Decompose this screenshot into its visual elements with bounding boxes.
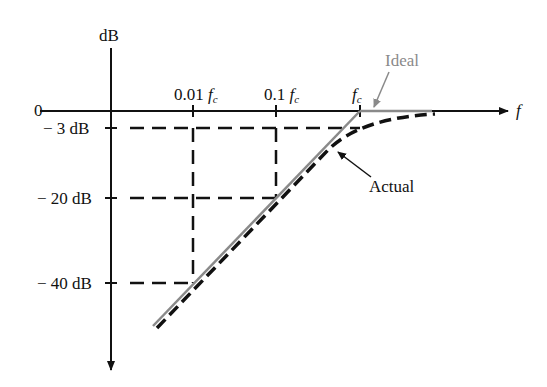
ideal-pointer xyxy=(374,72,389,107)
actual-label: Actual xyxy=(369,178,414,195)
y-tick-3db: − 3 dB xyxy=(43,120,89,137)
origin-label: 0 xyxy=(34,102,43,119)
actual-pointer xyxy=(338,152,371,177)
y-axis-label: dB xyxy=(99,27,119,44)
x-tick-0.01fc: 0.01 fc xyxy=(174,86,218,105)
ideal-curve xyxy=(153,111,432,326)
ideal-label: Ideal xyxy=(385,52,419,69)
x-tick-fc: fc xyxy=(352,86,362,105)
y-tick-20db: − 20 dB xyxy=(37,190,92,207)
x-tick-0.1fc: 0.1 fc xyxy=(264,86,299,105)
y-tick-40db: − 40 dB xyxy=(37,275,92,292)
x-axis-label: f xyxy=(516,102,521,119)
actual-curve xyxy=(157,114,435,328)
